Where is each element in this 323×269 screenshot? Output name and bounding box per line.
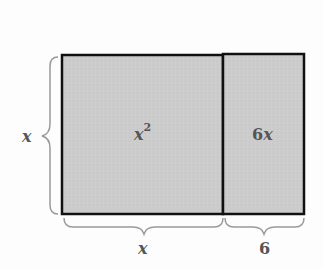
left-brace	[42, 57, 58, 214]
area-model-diagram: x2 6x x x 6	[0, 0, 323, 269]
height-label: x	[21, 127, 32, 146]
bottom-left-width-label: x	[137, 239, 148, 258]
bottom-right-brace	[225, 218, 304, 234]
bottom-right-width-label: 6	[259, 239, 270, 258]
bottom-left-brace	[64, 218, 223, 234]
strip-area-label: 6x	[252, 125, 273, 144]
